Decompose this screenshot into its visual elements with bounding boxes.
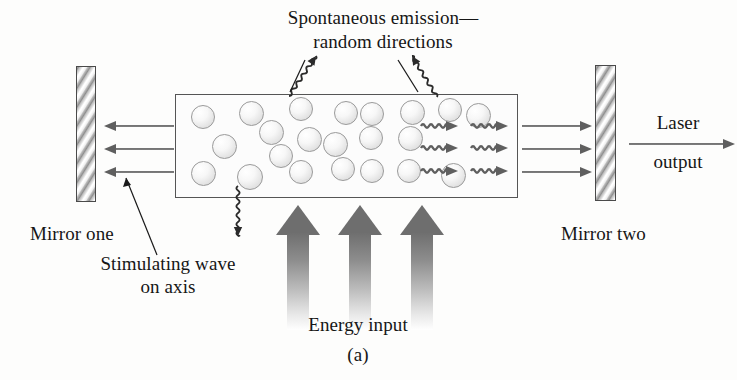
energy-input-arrow bbox=[276, 205, 320, 330]
stimulated-wave-arrowhead bbox=[446, 143, 458, 153]
spontaneous-emission-label-line1: Spontaneous emission— bbox=[243, 6, 523, 29]
spontaneous-up-right bbox=[412, 56, 437, 97]
beam-arrow-left bbox=[104, 170, 174, 174]
laser-output-arrow bbox=[629, 142, 735, 146]
spontaneous-up-left-arrowhead bbox=[307, 56, 316, 66]
leader-line-spontaneous-left bbox=[290, 60, 305, 92]
stimulating-wave-label-line1: Stimulating wave bbox=[73, 252, 263, 275]
stimulated-wave-arrowhead bbox=[496, 143, 508, 153]
beam-arrow-right bbox=[522, 147, 592, 151]
beam-arrow-right bbox=[522, 170, 592, 174]
stimulating-wave-label-line2: on axis bbox=[73, 275, 263, 298]
stimulated-wave-arrow bbox=[421, 124, 447, 127]
mirror-two bbox=[595, 65, 616, 201]
stimulated-wave-arrowhead bbox=[496, 121, 508, 131]
stimulated-wave-arrow bbox=[471, 124, 497, 127]
gain-medium-box bbox=[175, 94, 518, 198]
mirror-two-label: Mirror two bbox=[561, 222, 646, 245]
beam-arrow-right bbox=[522, 124, 592, 128]
stimulated-wave-arrows-layer bbox=[176, 95, 519, 199]
leader-arrowhead-stimulating-wave bbox=[123, 178, 131, 187]
energy-input-arrow bbox=[400, 205, 444, 330]
leader-line-spontaneous-right bbox=[398, 60, 418, 92]
stimulated-wave-arrowhead bbox=[446, 121, 458, 131]
energy-input-label: Energy input bbox=[248, 313, 468, 336]
stimulated-wave-arrow bbox=[421, 146, 447, 149]
spontaneous-up-right-arrowhead bbox=[412, 56, 420, 66]
laser-output-label-line2: output bbox=[628, 150, 728, 173]
spontaneous-down-arrowhead bbox=[234, 227, 242, 236]
stimulated-wave-arrow bbox=[471, 146, 497, 149]
beam-arrow-left bbox=[104, 124, 174, 128]
mirror-one-label: Mirror one bbox=[30, 222, 114, 245]
figure-caption: (a) bbox=[248, 343, 468, 366]
laser-cavity-figure: Spontaneous emission— random directions … bbox=[0, 0, 737, 380]
stimulated-wave-arrowhead bbox=[496, 166, 508, 176]
laser-output-label-line1: Laser bbox=[628, 111, 728, 134]
spontaneous-up-left bbox=[289, 56, 317, 96]
beam-arrow-left bbox=[104, 147, 174, 151]
energy-input-arrow bbox=[338, 205, 382, 330]
spontaneous-emission-label-line2: random directions bbox=[243, 30, 523, 53]
stimulated-wave-arrow bbox=[421, 169, 447, 172]
stimulated-wave-arrowhead bbox=[446, 166, 458, 176]
leader-line-stimulating-wave bbox=[126, 178, 157, 255]
stimulated-wave-arrow bbox=[471, 169, 497, 172]
mirror-one bbox=[76, 66, 96, 202]
